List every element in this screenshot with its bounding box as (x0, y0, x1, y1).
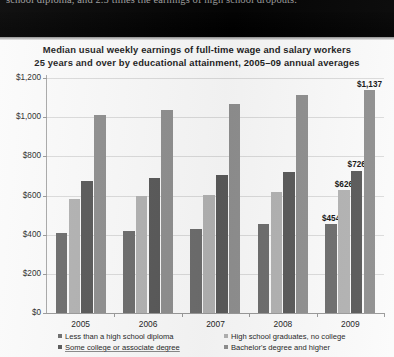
bar-group (47, 78, 114, 313)
legend-swatch-icon (58, 345, 62, 349)
bar[interactable] (229, 104, 241, 313)
y-tick-mark (43, 313, 47, 314)
bar-group (249, 78, 316, 313)
bar[interactable] (351, 171, 363, 313)
bar[interactable] (338, 190, 350, 313)
bar[interactable] (325, 224, 337, 313)
plot-area: $0$200$400$600$800$1,000$1,200 $454$626$… (47, 78, 384, 313)
document-excerpt-text: school diploma, and 2.5 times the earnin… (6, 0, 388, 5)
bar[interactable] (271, 192, 283, 313)
legend-label: Some college or associate degree (65, 343, 180, 352)
bar[interactable] (56, 233, 68, 313)
y-tick-label: $1,200 (0, 73, 41, 82)
chart-legend: Less than a high school diplomaHigh scho… (58, 332, 388, 356)
bar-group (182, 78, 249, 313)
x-tick-mark (384, 313, 385, 317)
legend-item[interactable]: Bachelor's degree and higher (224, 343, 330, 353)
x-axis-label: 2006 (139, 319, 158, 329)
bar-group: $454$626$726$1,137 (317, 78, 384, 313)
bar[interactable] (216, 175, 228, 313)
legend-label: Bachelor's degree and higher (231, 343, 330, 352)
chart-title-line-2: 25 years and over by educational attainm… (0, 57, 394, 70)
y-tick-label: $600 (0, 191, 41, 200)
bar-value-label: $1,137 (357, 80, 382, 89)
chart-title-line-1: Median usual weekly earnings of full-tim… (0, 44, 394, 57)
legend-label: High school graduates, no college (231, 332, 345, 341)
chart-card: Median usual weekly earnings of full-tim… (0, 37, 394, 357)
bar[interactable] (81, 181, 93, 313)
chart-title-block: Median usual weekly earnings of full-tim… (0, 44, 394, 69)
x-tick-mark (317, 313, 318, 317)
x-axis-label: 2007 (206, 319, 225, 329)
bar[interactable] (296, 95, 308, 313)
legend-label: Less than a high school diploma (65, 332, 174, 341)
x-tick-mark (182, 313, 183, 317)
legend-swatch-icon (58, 334, 62, 338)
bar[interactable] (69, 199, 81, 313)
bar-group (114, 78, 181, 313)
bar[interactable] (161, 110, 173, 313)
bar[interactable] (149, 178, 161, 313)
bar[interactable] (136, 196, 148, 313)
strip-gradient-overlay (0, 12, 394, 37)
x-axis-label: 2008 (274, 319, 293, 329)
bar[interactable] (364, 90, 376, 313)
x-axis-label: 2005 (71, 319, 90, 329)
bar[interactable] (190, 229, 202, 313)
bar[interactable] (94, 115, 106, 313)
legend-item[interactable]: Less than a high school diploma (58, 332, 174, 342)
y-tick-label: $1,000 (0, 112, 41, 121)
x-tick-mark (114, 313, 115, 317)
document-text-strip: school diploma, and 2.5 times the earnin… (0, 0, 394, 37)
bar[interactable] (283, 172, 295, 313)
legend-item[interactable]: Some college or associate degree (58, 343, 180, 353)
bar[interactable] (203, 195, 215, 313)
y-tick-label: $800 (0, 151, 41, 160)
legend-swatch-icon (224, 345, 228, 349)
bar[interactable] (123, 231, 135, 313)
x-axis-label: 2009 (341, 319, 360, 329)
y-tick-label: $400 (0, 230, 41, 239)
x-tick-mark (249, 313, 250, 317)
legend-item[interactable]: High school graduates, no college (224, 332, 345, 342)
y-tick-label: $200 (0, 269, 41, 278)
legend-swatch-icon (224, 334, 228, 338)
y-tick-label: $0 (0, 308, 41, 317)
x-axis-line (46, 313, 384, 314)
bar[interactable] (258, 224, 270, 313)
